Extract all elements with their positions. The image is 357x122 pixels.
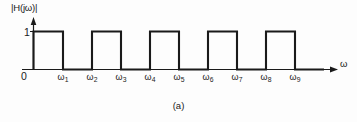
figure-container: |H(jω)| 1 0 ω ω1 ω2 ω3 ω4 ω5 ω6 ω7 ω8 ω9… xyxy=(0,0,357,122)
x-tick-symbol: ω xyxy=(261,72,268,82)
x-tick-symbol: ω xyxy=(203,72,210,82)
x-tick-label-omega-2: ω2 xyxy=(87,73,98,82)
x-tick-label-omega-4: ω4 xyxy=(145,73,156,82)
x-tick-symbol: ω xyxy=(116,72,123,82)
x-tick-symbol: ω xyxy=(58,72,65,82)
x-tick-symbol: ω xyxy=(232,72,239,82)
x-tick-subscript: 4 xyxy=(152,76,156,83)
x-tick-subscript: 3 xyxy=(123,76,127,83)
x-tick-label-omega-8: ω8 xyxy=(261,73,272,82)
x-tick-symbol: ω xyxy=(145,72,152,82)
x-tick-label-omega-1: ω1 xyxy=(58,73,69,82)
x-axis-label: ω xyxy=(340,59,347,69)
figure-caption: (a) xyxy=(0,101,357,111)
x-tick-subscript: 5 xyxy=(181,76,185,83)
y-axis-label: |H(jω)| xyxy=(11,3,37,13)
x-tick-label-omega-9: ω9 xyxy=(290,73,301,82)
x-tick-label-omega-6: ω6 xyxy=(203,73,214,82)
x-tick-subscript: 2 xyxy=(94,76,98,83)
x-tick-subscript: 8 xyxy=(268,76,272,83)
x-tick-symbol: ω xyxy=(174,72,181,82)
x-tick-symbol: ω xyxy=(87,72,94,82)
x-tick-subscript: 6 xyxy=(210,76,214,83)
x-tick-subscript: 9 xyxy=(297,76,301,83)
origin-label: 0 xyxy=(21,71,27,82)
waveform-trace xyxy=(34,32,325,70)
x-tick-label-omega-5: ω5 xyxy=(174,73,185,82)
x-tick-subscript: 1 xyxy=(65,76,69,83)
x-tick-subscript: 7 xyxy=(239,76,243,83)
x-tick-label-omega-7: ω7 xyxy=(232,73,243,82)
x-tick-label-omega-3: ω3 xyxy=(116,73,127,82)
x-tick-symbol: ω xyxy=(290,72,297,82)
y-tick-label-one: 1 xyxy=(24,27,30,38)
